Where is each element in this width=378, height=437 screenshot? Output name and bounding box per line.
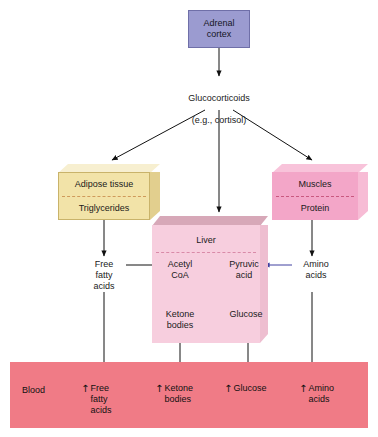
blood-item-label: Free fatty acids [90, 383, 111, 416]
adrenal-cortex-box: Adrenal cortex [188, 10, 250, 48]
pyruvic-acid-label: Pyruvic acid [216, 259, 272, 281]
increase-arrow-icon: ↑ [155, 383, 163, 394]
glucocorticoids-label: Glucocorticoids (e.g., cortisol) [149, 82, 289, 137]
free-fatty-acids-label: Free fatty acids [74, 259, 134, 292]
amino-acids-label: Amino acids [288, 259, 344, 281]
increase-arrow-icon: ↑ [81, 383, 89, 394]
liver-side-face [260, 225, 268, 343]
increase-arrow-icon: ↑ [224, 383, 232, 394]
increase-arrow-icon: ↑ [299, 383, 307, 394]
blood-item-label: Ketone bodies [164, 383, 193, 405]
muscles-side-face [358, 172, 368, 220]
liver-divider [156, 252, 256, 253]
liver-label: Liver [152, 235, 260, 246]
blood-item-label: Amino acids [308, 383, 334, 405]
adrenal-cortex-label: Adrenal cortex [203, 18, 234, 40]
glucocorticoids-line2: (e.g., cortisol) [149, 115, 289, 126]
adipose-tissue-box: Adipose tissue Triglycerides [58, 164, 160, 220]
blood-label: Blood [22, 385, 45, 396]
glucose-liver-label: Glucose [218, 309, 274, 320]
protein-label: Protein [272, 203, 358, 214]
muscles-divider [276, 196, 354, 197]
diagram-canvas: Adrenal cortex Glucocorticoids (e.g., co… [0, 0, 378, 437]
blood-item-amino-acids: ↑ Amino acids [299, 383, 334, 405]
blood-item-ketone-bodies: ↑ Ketone bodies [155, 383, 193, 405]
glucocorticoids-line1: Glucocorticoids [149, 93, 289, 104]
blood-item-label: Glucose [233, 383, 266, 394]
ketone-bodies-label: Ketone bodies [152, 309, 208, 331]
triglycerides-label: Triglycerides [58, 203, 150, 214]
adipose-divider [62, 196, 146, 197]
adipose-side-face [150, 172, 160, 220]
blood-item-free-fatty-acids: ↑ Free fatty acids [81, 383, 111, 416]
acetyl-coa-label: Acetyl CoA [152, 259, 208, 281]
blood-item-glucose: ↑ Glucose [224, 383, 266, 394]
muscles-box: Muscles Protein [272, 164, 368, 220]
adipose-tissue-label: Adipose tissue [58, 179, 150, 190]
muscles-label: Muscles [272, 179, 358, 190]
